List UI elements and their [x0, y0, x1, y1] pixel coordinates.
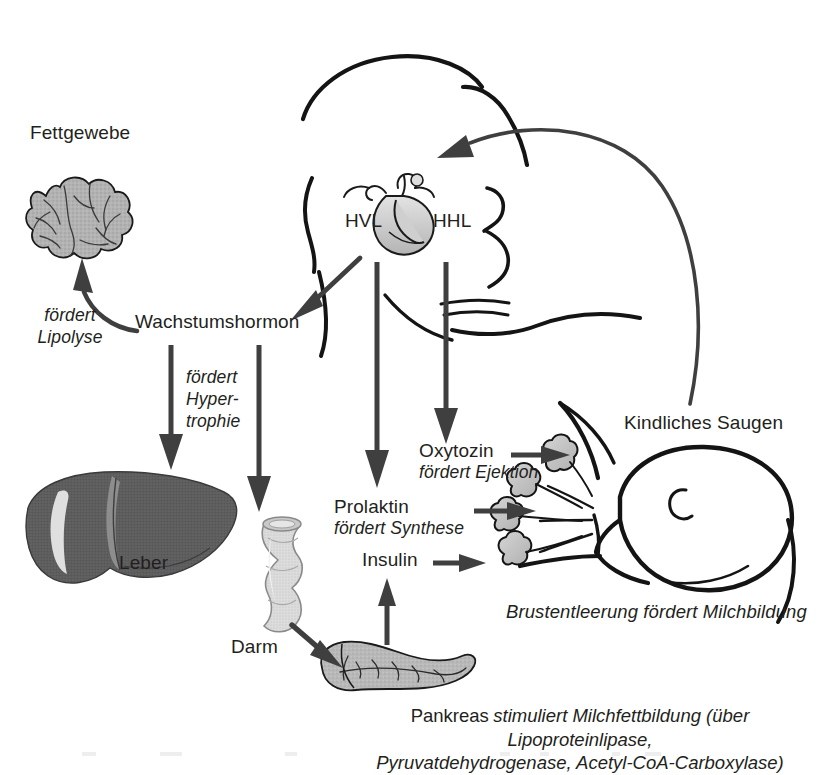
label-prolaktin: Prolaktin — [334, 496, 409, 518]
label-hvl: HVL — [345, 210, 382, 232]
arrow-wachstumshormon-to-darm — [247, 345, 271, 512]
label-foerdert-hypertrophie-line1: fördert — [186, 367, 237, 388]
label-foerdert-synthese: fördert Synthese — [334, 518, 464, 539]
label-foerdert-lipolyse-line1: fördert — [18, 305, 122, 326]
label-wachstumshormon: Wachstumshormon — [135, 311, 299, 333]
arrow-wachstumshormon-to-leber — [159, 345, 183, 470]
intestine-icon — [262, 517, 302, 632]
label-foerdert-lipolyse-line2: Lipolyse — [18, 327, 122, 348]
label-kindliches-saugen: Kindliches Saugen — [624, 412, 783, 434]
arrow-insulin-to-breast — [433, 554, 486, 572]
label-oxytozin: Oxytozin — [419, 440, 494, 462]
label-hhl: HHL — [433, 210, 471, 232]
label-insulin: Insulin — [362, 549, 418, 571]
arrow-pankreas-to-insulin — [378, 578, 396, 645]
mother-head-profile-icon — [303, 56, 640, 463]
label-foerdert-ejektion: fördert Ejektion — [419, 462, 538, 483]
caption-pankreas: Pankreas stimuliert Milchfettbildung (üb… — [360, 704, 800, 775]
pancreas-icon — [321, 642, 475, 691]
caption-line2: Pyruvatdehydrogenase, Acetyl-CoA-Carboxy… — [360, 751, 800, 775]
arrow-feedback-suckling-to-head — [437, 130, 698, 404]
arrow-hhl-to-oxytozin — [434, 262, 458, 444]
label-leber: Leber — [119, 552, 168, 574]
label-foerdert-hypertrophie-line2: Hyper- — [186, 389, 239, 410]
caption-pankreas-label: Pankreas — [411, 705, 489, 726]
label-darm: Darm — [231, 636, 278, 658]
label-fettgewebe: Fettgewebe — [30, 122, 130, 144]
mammary-lobules-icon — [491, 403, 600, 566]
adipose-tissue-icon — [26, 178, 132, 259]
label-brustentleerung: Brustentleerung fördert Milchbildung — [506, 601, 807, 623]
infant-head-icon — [596, 447, 794, 622]
label-foerdert-hypertrophie-line3: trophie — [186, 411, 240, 432]
caption-line1: stimuliert Milchfettbildung (über Lipopr… — [493, 705, 749, 750]
